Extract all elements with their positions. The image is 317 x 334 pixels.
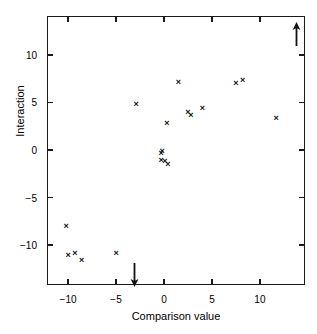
- y-axis-tick-label: −5: [26, 192, 37, 203]
- y-axis-tick-right: [299, 54, 305, 55]
- y-axis-label: Interaction: [14, 31, 26, 191]
- x-axis-tick-label: −10: [60, 294, 77, 305]
- y-axis-tick: [47, 54, 53, 55]
- x-axis-label: Comparison value: [47, 310, 305, 322]
- y-axis-tick: [47, 149, 53, 150]
- y-axis-tick: [47, 197, 53, 198]
- y-axis-tick-label: 10: [26, 49, 37, 60]
- y-axis-tick-right: [299, 149, 305, 150]
- y-axis-tick-right: [299, 244, 305, 245]
- x-axis-tick-label: −5: [110, 294, 121, 305]
- y-axis-ticks: [47, 16, 305, 285]
- y-axis-tick-label: 0: [31, 145, 37, 156]
- y-axis-tick: [47, 244, 53, 245]
- y-axis-tick: [47, 102, 53, 103]
- y-axis-tick-label: 5: [31, 97, 37, 108]
- scatter-chart-figure: −10−50510 −10−50510 Comparison value Int…: [0, 0, 317, 334]
- y-axis-tick-label: −10: [20, 240, 37, 251]
- y-axis-tick-right: [299, 197, 305, 198]
- y-axis-tick-right: [299, 102, 305, 103]
- x-axis-tick-label: 5: [209, 294, 215, 305]
- x-axis-tick-label: 10: [254, 294, 265, 305]
- x-axis-tick-label: 0: [161, 294, 167, 305]
